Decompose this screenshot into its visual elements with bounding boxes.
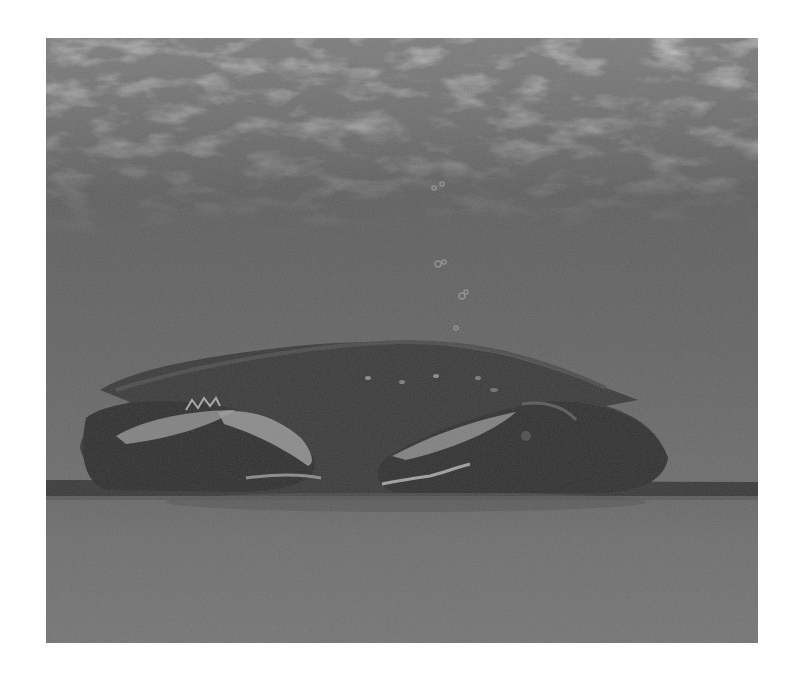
paper-grain bbox=[46, 38, 758, 643]
crab-illustration bbox=[46, 38, 758, 643]
crab-scene bbox=[46, 38, 758, 643]
